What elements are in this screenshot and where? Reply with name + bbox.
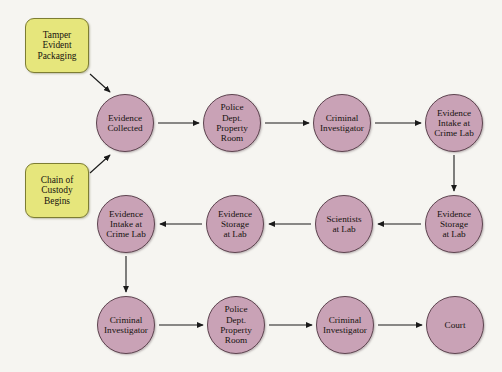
node-police-property-room-1[interactable]: Police Dept. Property Room: [203, 94, 261, 152]
node-tamper-evident-packaging[interactable]: Tamper Evident Packaging: [25, 18, 89, 73]
node-label: Criminal Investigator: [102, 315, 150, 336]
node-criminal-investigator-2[interactable]: Criminal Investigator: [97, 296, 155, 354]
node-label: Tamper Evident Packaging: [35, 30, 78, 62]
node-evidence-storage-lab-left[interactable]: Evidence Storage at Lab: [206, 195, 264, 253]
node-label: Police Dept. Property Room: [214, 102, 250, 143]
flowchart-canvas: Tamper Evident Packaging Chain of Custod…: [0, 0, 502, 372]
edge-custody-to-evidence-collected: [90, 155, 110, 173]
node-label: Chain of Custody Begins: [39, 175, 76, 207]
node-chain-of-custody-begins[interactable]: Chain of Custody Begins: [25, 163, 89, 218]
node-evidence-intake-crime-lab-2[interactable]: Evidence Intake at Crime Lab: [97, 195, 155, 253]
node-criminal-investigator-3[interactable]: Criminal Investigator: [316, 296, 374, 354]
node-criminal-investigator-1[interactable]: Criminal Investigator: [313, 94, 371, 152]
node-label: Evidence Intake at Crime Lab: [104, 209, 148, 240]
node-label: Police Dept. Property Room: [218, 304, 254, 345]
edge-tamper-to-evidence-collected: [90, 74, 110, 92]
node-evidence-collected[interactable]: Evidence Collected: [96, 94, 154, 152]
node-court[interactable]: Court: [426, 296, 484, 354]
node-label: Scientists at Lab: [324, 214, 363, 235]
node-label: Evidence Intake at Crime Lab: [432, 108, 476, 139]
node-label: Criminal Investigator: [318, 113, 366, 134]
node-evidence-storage-lab-right[interactable]: Evidence Storage at Lab: [425, 195, 483, 253]
node-scientists-at-lab[interactable]: Scientists at Lab: [315, 195, 373, 253]
node-label: Evidence Storage at Lab: [216, 209, 254, 240]
node-label: Evidence Collected: [105, 113, 144, 134]
node-label: Criminal Investigator: [321, 315, 369, 336]
node-police-property-room-2[interactable]: Police Dept. Property Room: [207, 296, 265, 354]
node-label: Court: [443, 320, 468, 330]
node-label: Evidence Storage at Lab: [435, 209, 473, 240]
node-evidence-intake-crime-lab-1[interactable]: Evidence Intake at Crime Lab: [425, 94, 483, 152]
